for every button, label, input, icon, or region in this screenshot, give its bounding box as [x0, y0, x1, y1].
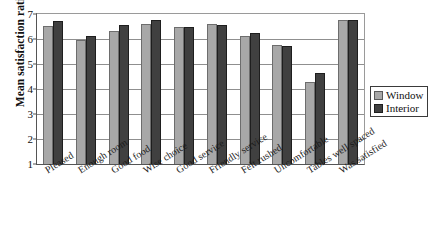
bar-window[interactable] — [76, 40, 86, 164]
bar-interior[interactable] — [282, 46, 292, 164]
x-axis-category-labels: PleasedEnough roomGood foodWise choiceGo… — [36, 166, 363, 250]
legend-swatch-window-icon — [374, 91, 383, 100]
legend: Window Interior — [370, 86, 428, 117]
y-axis-title: Mean satisfaction ratings — [14, 0, 26, 124]
legend-item-window[interactable]: Window — [374, 89, 423, 101]
bar-interior[interactable] — [53, 21, 63, 164]
y-tick-label: 3 — [28, 108, 34, 120]
bar-window[interactable] — [43, 26, 53, 164]
y-tick-label: 1 — [28, 158, 34, 170]
bar-group — [70, 14, 103, 164]
y-tick-label: 2 — [28, 133, 34, 145]
y-tick-label: 6 — [28, 33, 34, 45]
bar-group — [135, 14, 168, 164]
y-tick-label: 4 — [28, 83, 34, 95]
legend-swatch-interior-icon — [374, 104, 383, 113]
legend-label-window: Window — [386, 89, 423, 101]
y-tick-label: 5 — [28, 58, 34, 70]
legend-label-interior: Interior — [386, 102, 419, 114]
bar-chart: Mean satisfaction ratings 1234567 Please… — [0, 0, 437, 250]
bar-group — [266, 14, 299, 164]
bar-interior[interactable] — [151, 20, 161, 165]
y-tick-label: 7 — [28, 8, 34, 20]
bar-group — [37, 14, 70, 164]
legend-item-interior[interactable]: Interior — [374, 102, 423, 114]
bar-interior[interactable] — [86, 36, 96, 164]
